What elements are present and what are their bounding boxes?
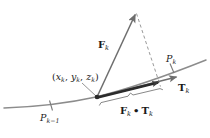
label-sample-point-coordinates: (xk, yk, zk) [52, 72, 99, 83]
tangent-vector-subscript: k [185, 87, 189, 95]
coordinate-leader-line [82, 83, 96, 96]
tick-mark-pk-minus-1 [50, 101, 53, 111]
projection-brace [100, 89, 163, 106]
curve-path [4, 60, 206, 108]
coord-close-paren: ) [95, 71, 99, 82]
projection-dashed-line [137, 14, 161, 87]
label-tangent-vector: Tk [178, 83, 189, 94]
label-partition-point-pk: Pk [166, 54, 176, 65]
pkm1-subscript: k−1 [46, 117, 59, 124]
dot-operator-icon: • [131, 105, 141, 116]
figure-vector-projection-along-curve: (xk, yk, zk) Fk Tk Pk Pk−1 Fk•Tk [0, 0, 210, 138]
proj-second-subscript: k [149, 110, 153, 118]
label-force-vector: Fk [98, 40, 109, 51]
pk-subscript: k [172, 58, 176, 65]
proj-second-symbol: T [142, 105, 149, 116]
sample-point-dot [95, 95, 100, 100]
label-partition-point-pk-minus-1: Pk−1 [40, 113, 59, 124]
label-projection-dot-product: Fk•Tk [120, 106, 153, 117]
force-vector-subscript: k [105, 44, 109, 52]
diagram-canvas [0, 0, 210, 138]
force-vector-arrow [97, 15, 135, 98]
